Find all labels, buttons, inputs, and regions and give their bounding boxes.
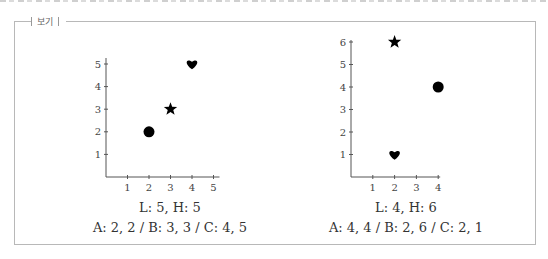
left-caption-line1: L: 5, H: 5 — [100, 200, 240, 215]
y-tick-label: 5 — [340, 59, 346, 70]
point-B-star-marker — [388, 35, 401, 48]
point-C-heart-marker — [389, 151, 400, 160]
x-tick-label: 2 — [391, 182, 397, 193]
x-tick-label: 4 — [435, 182, 441, 193]
y-tick-label: 2 — [340, 127, 346, 138]
point-A-circle-marker — [433, 82, 444, 93]
y-tick-label: 3 — [340, 104, 346, 115]
right-caption-line1: L: 4, H: 6 — [336, 200, 476, 215]
y-tick-label: 1 — [340, 149, 346, 160]
right-caption-line2: A: 4, 4 / B: 2, 6 / C: 2, 1 — [296, 220, 516, 235]
x-tick-label: 1 — [370, 182, 376, 193]
x-tick-label: 3 — [413, 182, 419, 193]
y-tick-label: 4 — [340, 82, 346, 93]
y-tick-label: 6 — [340, 37, 346, 48]
left-caption-line2: A: 2, 2 / B: 3, 3 / C: 4, 5 — [60, 220, 280, 235]
